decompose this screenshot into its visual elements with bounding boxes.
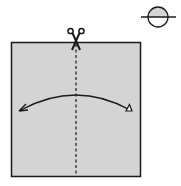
half-shaded-circle-icon xyxy=(141,7,176,27)
origami-diagram xyxy=(0,0,181,186)
